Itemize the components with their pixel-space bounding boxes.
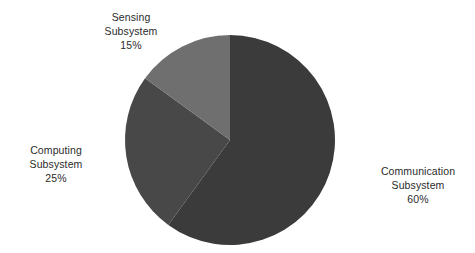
pie-label-sensing: Sensing Subsystem 15% bbox=[71, 10, 191, 52]
pie-label-computing-subsystem: Subsystem bbox=[0, 157, 116, 171]
pie-label-sensing-name: Sensing bbox=[71, 10, 191, 24]
pie-label-communication-value: 60% bbox=[358, 192, 475, 206]
pie-label-computing: Computing Subsystem 25% bbox=[0, 143, 116, 185]
pie-label-sensing-value: 15% bbox=[71, 38, 191, 52]
pie-slices-group bbox=[125, 35, 335, 245]
pie-label-sensing-subsystem: Subsystem bbox=[71, 24, 191, 38]
pie-label-communication-name: Communication bbox=[358, 164, 475, 178]
pie-label-computing-name: Computing bbox=[0, 143, 116, 157]
pie-label-communication: Communication Subsystem 60% bbox=[358, 164, 475, 206]
pie-chart-figure: Sensing Subsystem 15% Computing Subsyste… bbox=[0, 0, 475, 253]
pie-label-communication-subsystem: Subsystem bbox=[358, 178, 475, 192]
pie-label-computing-value: 25% bbox=[0, 171, 116, 185]
